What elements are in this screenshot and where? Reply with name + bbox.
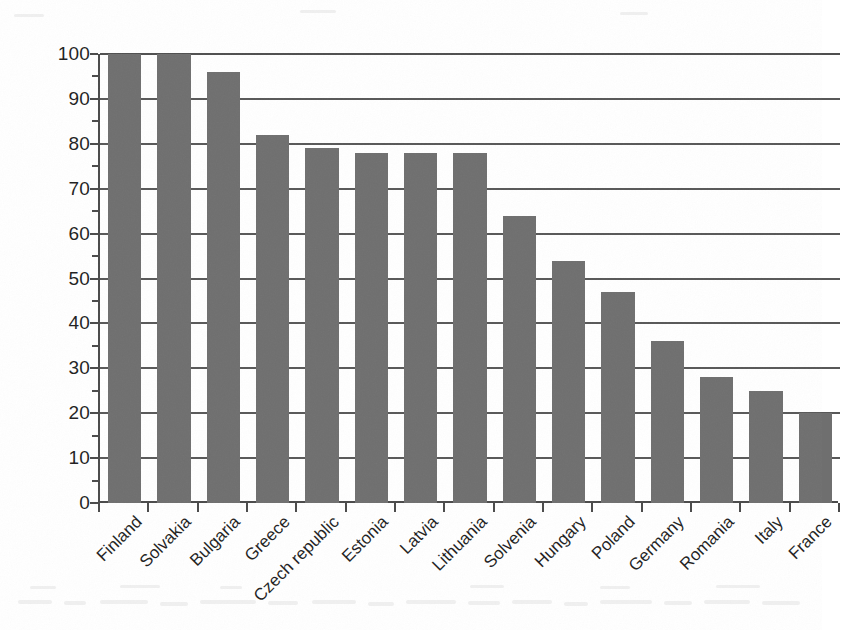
- y-tick-mark-10: [90, 457, 98, 459]
- y-axis: 0102030405060708090100: [40, 54, 90, 503]
- bar: [108, 54, 141, 503]
- x-tick-mark-8: [493, 503, 495, 512]
- x-tick-mark-14: [789, 503, 791, 512]
- y-tick-label-20: 20: [42, 403, 90, 422]
- y-tick-mark-70: [90, 188, 98, 190]
- bar: [552, 261, 585, 503]
- x-tick-mark-4: [295, 503, 297, 512]
- y-tick-mark-100: [90, 53, 98, 55]
- bar: [157, 54, 190, 503]
- x-tick-mark-5: [345, 503, 347, 512]
- bars-group: [100, 54, 840, 503]
- x-tick-mark-12: [690, 503, 692, 512]
- bar: [404, 153, 437, 503]
- plot-area: [98, 54, 838, 503]
- bar: [601, 292, 634, 503]
- x-tick-mark-0: [98, 503, 100, 512]
- x-axis-ticks: [98, 503, 838, 513]
- y-tick-mark-0: [90, 502, 98, 504]
- x-tick-mark-6: [394, 503, 396, 512]
- bar: [799, 413, 832, 503]
- y-tick-label-0: 0: [42, 493, 90, 512]
- bar-chart: 0102030405060708090100 FinlandSolvakiaBu…: [40, 16, 844, 630]
- y-tick-label-70: 70: [42, 179, 90, 198]
- y-tick-label-40: 40: [42, 313, 90, 332]
- y-tick-label-80: 80: [42, 134, 90, 153]
- y-tick-mark-20: [90, 412, 98, 414]
- y-tick-mark-50: [90, 278, 98, 280]
- bar: [256, 135, 289, 503]
- y-tick-mark-30: [90, 367, 98, 369]
- x-tick-mark-2: [197, 503, 199, 512]
- y-tick-label-60: 60: [42, 224, 90, 243]
- y-tick-label-100: 100: [42, 44, 90, 63]
- x-tick-mark-11: [641, 503, 643, 512]
- y-tick-label-90: 90: [42, 89, 90, 108]
- x-axis-labels: FinlandSolvakiaBulgariaGreeceCzech repub…: [98, 513, 838, 630]
- bar: [453, 153, 486, 503]
- x-tick-mark-3: [246, 503, 248, 512]
- y-tick-mark-90: [90, 98, 98, 100]
- bar: [651, 341, 684, 503]
- x-tick-mark-15: [838, 503, 840, 512]
- x-tick-label-text: France: [786, 513, 836, 563]
- y-tick-label-30: 30: [42, 358, 90, 377]
- x-tick-mark-1: [147, 503, 149, 512]
- y-tick-mark-60: [90, 233, 98, 235]
- y-tick-label-50: 50: [42, 269, 90, 288]
- bar: [207, 72, 240, 503]
- bar: [700, 377, 733, 503]
- y-tick-mark-80: [90, 143, 98, 145]
- y-tick-mark-40: [90, 322, 98, 324]
- bar: [355, 153, 388, 503]
- y-tick-label-10: 10: [42, 448, 90, 467]
- bar: [305, 148, 338, 503]
- bar: [503, 216, 536, 503]
- x-tick-mark-7: [443, 503, 445, 512]
- x-tick-mark-13: [739, 503, 741, 512]
- x-tick-mark-10: [591, 503, 593, 512]
- x-tick-label-text: Italy: [752, 513, 787, 548]
- x-tick-mark-9: [542, 503, 544, 512]
- bar: [749, 391, 782, 503]
- x-tick-label-text: Latvia: [397, 513, 442, 558]
